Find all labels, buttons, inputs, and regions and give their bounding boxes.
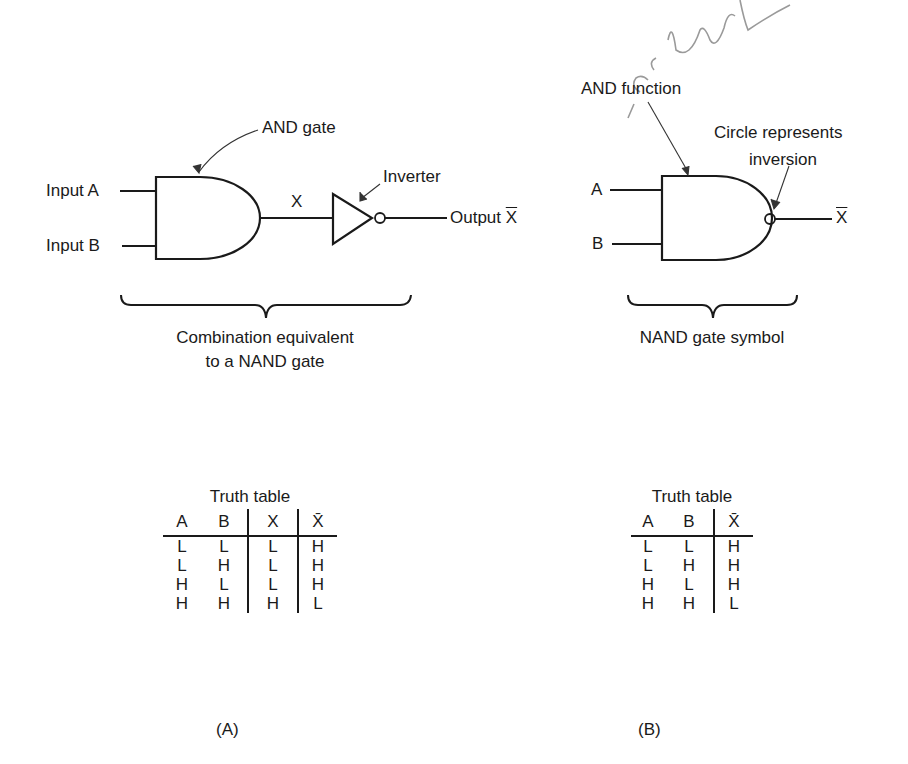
col-x-bar: X̄ [714,509,753,536]
brace-b [628,295,797,318]
cell: H [298,556,337,575]
cell: H [665,594,714,613]
cell: L [631,536,665,556]
truth-table-a-title: Truth table [163,487,337,507]
and-gate-a [156,177,260,259]
cell: H [714,536,753,556]
cell: L [163,556,201,575]
inverter-bubble [375,213,385,223]
col-a: A [163,509,201,536]
cell: H [631,575,665,594]
table-row: H L H [631,575,753,594]
col-a: A [631,509,665,536]
nand-bubble [765,214,775,224]
nand-input-b-label: B [592,235,603,252]
cell: L [298,594,337,613]
output-label-text: Output [450,208,506,227]
cell: H [298,575,337,594]
cell: L [714,594,753,613]
table-row: L L L H [163,536,337,556]
nand-output-x-bar: X [836,209,847,226]
truth-table-b: Truth table A B X̄ L L H L H H H L H H H… [631,487,753,613]
and-gate-label: AND gate [262,119,336,136]
nand-gate-body [662,176,772,260]
cell: H [714,556,753,575]
truth-table-a: Truth table A B X X̄ L L L H L H L H H L… [163,487,337,613]
cell: H [631,594,665,613]
brace-a [121,295,411,318]
circle-callout [775,166,789,206]
nand-input-a-label: A [591,181,602,198]
table-row: L L H [631,536,753,556]
col-b: B [665,509,714,536]
inverter-triangle [333,194,372,244]
output-x-bar: X [506,208,517,227]
table-row: H H L [631,594,753,613]
cell: H [201,594,248,613]
cell: H [163,575,201,594]
col-b: B [201,509,248,536]
cell: H [201,556,248,575]
cell: L [248,536,298,556]
input-b-label: Input B [46,237,100,254]
cell: L [248,575,298,594]
cell: L [201,536,248,556]
cell: L [248,556,298,575]
col-x-bar: X̄ [298,509,337,536]
table-row: L H H [631,556,753,575]
cell: H [298,536,337,556]
cell: L [631,556,665,575]
and-gate-callout [199,130,258,172]
caption-a-line1: Combination equivalent [140,326,390,350]
truth-table-a-grid: A B X X̄ L L L H L H L H H L L H H H H L [163,509,337,613]
panel-b-label: (B) [638,720,661,740]
cell: L [201,575,248,594]
truth-table-b-title: Truth table [631,487,753,507]
table-row: L H L H [163,556,337,575]
table-row: H H H L [163,594,337,613]
cell: H [163,594,201,613]
col-x: X [248,509,298,536]
intermediate-x-label: X [291,193,302,210]
and-function-label: AND function [581,80,681,97]
output-label: Output X [450,209,517,226]
handwriting-pen-stroke [628,0,790,118]
circle-label-line1: Circle represents [714,124,843,141]
truth-table-b-grid: A B X̄ L L H L H H H L H H H L [631,509,753,613]
cell: H [248,594,298,613]
cell: H [665,556,714,575]
input-a-label: Input A [46,182,99,199]
caption-a-line2: to a NAND gate [140,350,390,374]
cell: L [665,536,714,556]
caption-a: Combination equivalent to a NAND gate [140,326,390,374]
inverter-callout [362,184,380,198]
cell: L [163,536,201,556]
caption-b: NAND gate symbol [612,326,812,350]
circle-label-line2: inversion [749,151,817,168]
panel-a-label: (A) [216,720,239,740]
circuit-drawing [0,0,908,764]
cell: L [665,575,714,594]
and-function-callout [648,102,688,172]
inverter-label: Inverter [383,168,441,185]
table-row: H L L H [163,575,337,594]
cell: H [714,575,753,594]
